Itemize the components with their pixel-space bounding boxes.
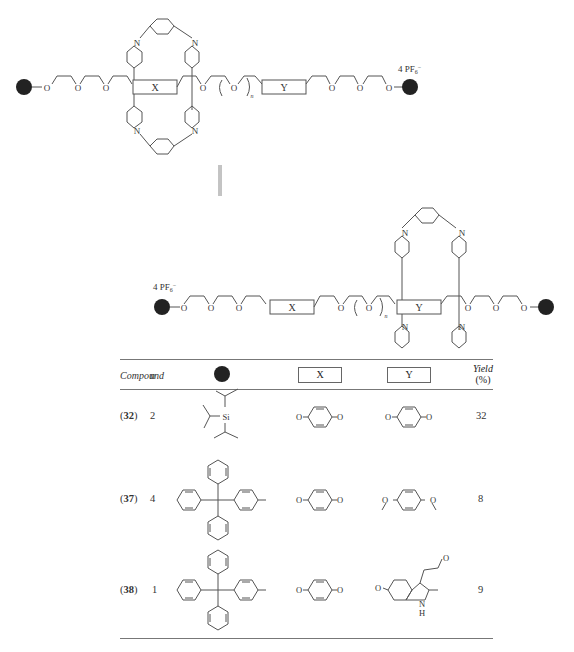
- oxygen-label: O: [337, 585, 343, 595]
- table-structures: Si O O O O O O O O O O O O N H: [0, 0, 574, 652]
- indole-y-unit: [383, 559, 442, 600]
- oxygen-label: O: [443, 553, 449, 563]
- triisopropylsilyl-stopper: [203, 389, 238, 438]
- oxygen-label: O: [430, 495, 436, 505]
- oxygen-label: O: [296, 495, 302, 505]
- oxygen-label: O: [385, 412, 391, 422]
- oxygen-label: O: [296, 412, 302, 422]
- hydrogen-label: H: [419, 608, 425, 618]
- oxygen-label: O: [382, 495, 388, 505]
- oxygen-label: O: [375, 583, 381, 593]
- silicon-label: Si: [222, 412, 230, 422]
- tetraarylmethane-stopper: [177, 460, 266, 540]
- oxygen-label: O: [337, 412, 343, 422]
- oxygen-label: O: [426, 412, 432, 422]
- tetraarylmethane-stopper: [177, 550, 266, 630]
- oxygen-label: O: [296, 585, 302, 595]
- oxygen-label: O: [337, 495, 343, 505]
